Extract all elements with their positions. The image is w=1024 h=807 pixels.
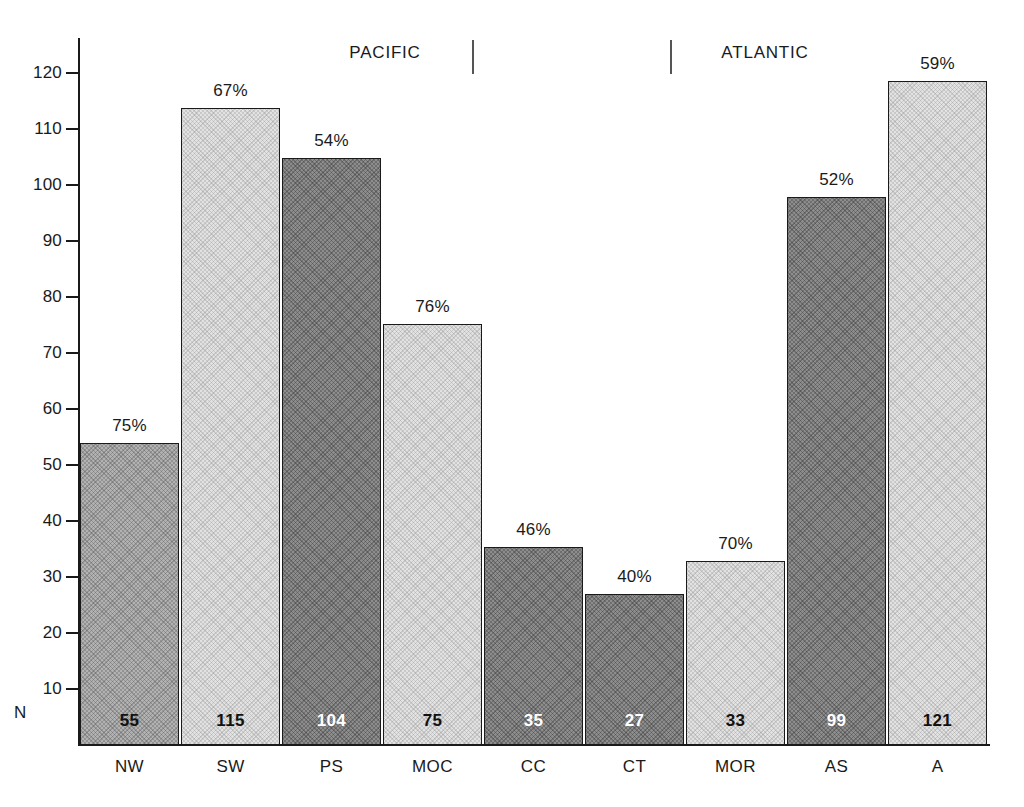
bar-n-value-nw: 55	[80, 712, 179, 729]
bar-nw	[80, 443, 179, 745]
x-category-label-ps: PS	[282, 758, 381, 775]
plot-area: 102030405060708090100110120 N PACIFICATL…	[0, 0, 1024, 807]
y-tick-label: 90	[4, 232, 62, 249]
x-category-label-as: AS	[787, 758, 886, 775]
x-category-label-ct: CT	[585, 758, 684, 775]
bar-percent-label-ct: 40%	[579, 568, 690, 585]
y-tick-mark	[66, 632, 79, 634]
bar-percent-label-sw: 67%	[175, 82, 286, 99]
bar-as	[787, 197, 886, 745]
y-tick-label: 120	[4, 64, 62, 81]
y-tick-label: 30	[4, 568, 62, 585]
bar-ps	[282, 158, 381, 745]
n-axis-label: N	[14, 704, 26, 721]
y-tick-mark	[66, 688, 79, 690]
bar-n-value-mor: 33	[686, 712, 785, 729]
bar-percent-label-mor: 70%	[680, 535, 791, 552]
bar-moc	[383, 324, 482, 745]
y-tick-mark	[66, 408, 79, 410]
y-tick-label: 100	[4, 176, 62, 193]
bar-n-value-a: 121	[888, 712, 987, 729]
x-category-label-a: A	[888, 758, 987, 775]
y-tick-label: 40	[4, 512, 62, 529]
y-tick-mark	[66, 464, 79, 466]
bar-percent-label-ps: 54%	[276, 132, 387, 149]
bar-percent-label-a: 59%	[882, 55, 993, 72]
bar-n-value-moc: 75	[383, 712, 482, 729]
x-category-label-moc: MOC	[383, 758, 482, 775]
bar-chart-figure: 102030405060708090100110120 N PACIFICATL…	[0, 0, 1024, 807]
y-tick-mark	[66, 296, 79, 298]
bar-percent-label-cc: 46%	[478, 521, 589, 538]
bar-n-value-as: 99	[787, 712, 886, 729]
y-tick-mark	[66, 352, 79, 354]
x-category-label-cc: CC	[484, 758, 583, 775]
y-tick-label: 80	[4, 288, 62, 305]
x-category-label-sw: SW	[181, 758, 280, 775]
y-tick-label: 60	[4, 400, 62, 417]
bar-n-value-ct: 27	[585, 712, 684, 729]
y-tick-mark	[66, 72, 79, 74]
y-tick-mark	[66, 520, 79, 522]
bar-n-value-cc: 35	[484, 712, 583, 729]
y-tick-label: 10	[4, 680, 62, 697]
y-tick-mark	[66, 240, 79, 242]
group-label-atlantic: ATLANTIC	[690, 44, 840, 61]
x-category-label-nw: NW	[80, 758, 179, 775]
x-category-label-mor: MOR	[686, 758, 785, 775]
y-tick-mark	[66, 576, 79, 578]
y-tick-label: 110	[4, 120, 62, 137]
bar-a	[888, 81, 987, 745]
bar-percent-label-moc: 76%	[377, 298, 488, 315]
group-separator	[670, 40, 672, 74]
bar-n-value-ps: 104	[282, 712, 381, 729]
bar-percent-label-as: 52%	[781, 171, 892, 188]
bar-n-value-sw: 115	[181, 712, 280, 729]
y-tick-label: 70	[4, 344, 62, 361]
bar-sw	[181, 108, 280, 745]
y-tick-label: 20	[4, 624, 62, 641]
y-tick-label: 50	[4, 456, 62, 473]
bar-percent-label-nw: 75%	[74, 417, 185, 434]
y-tick-mark	[66, 184, 79, 186]
group-separator	[472, 40, 474, 74]
group-label-pacific: PACIFIC	[320, 44, 450, 61]
y-tick-mark	[66, 128, 79, 130]
